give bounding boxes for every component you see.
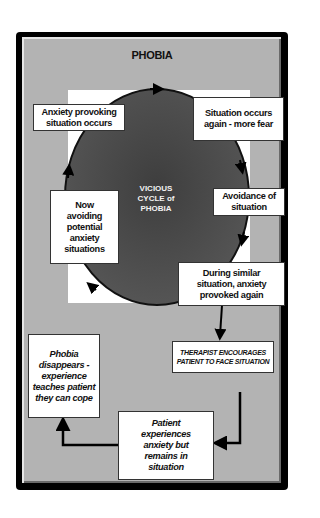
node-now-avoiding: Now avoiding potential anxiety situation… <box>50 190 119 264</box>
node-therapist: THERAPIST ENCOURAGES PATIENT TO FACE SIT… <box>172 341 274 373</box>
center-label: VICIOUS CYCLE of PHOBIA <box>120 184 192 214</box>
node-during-similar: During similar situation, anxiety provok… <box>178 262 285 306</box>
cycle-arrow-bottom-left <box>90 285 96 290</box>
center-label-line-2: CYCLE of <box>138 194 175 203</box>
arrow-during-to-therapist <box>220 305 222 336</box>
node-avoidance: Avoidance of situation <box>213 188 285 216</box>
cycle-arrow-left <box>68 168 69 178</box>
arrow-patient-to-phobia <box>63 422 118 445</box>
node-patient-experiences: Patient experiences anxiety but remains … <box>118 411 214 480</box>
node-phobia-disappears: Phobia disappears - experience teaches p… <box>28 334 100 418</box>
center-label-line-1: VICIOUS <box>140 184 173 193</box>
center-label-line-3: PHOBIA <box>140 204 171 213</box>
node-anxiety-provoking: Anxiety provoking situation occurs <box>33 104 125 131</box>
arrow-therapist-to-patient <box>218 392 240 443</box>
node-situation-again: Situation occurs again - more fear <box>193 97 284 141</box>
